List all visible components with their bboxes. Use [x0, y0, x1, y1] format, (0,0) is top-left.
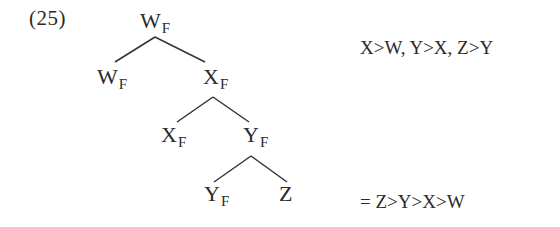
- edge-x-xleaf: [177, 97, 213, 122]
- edge-y-z: [251, 156, 287, 182]
- node-label: X: [161, 122, 177, 147]
- tree-node-y-leaf: YF: [204, 183, 229, 209]
- tree-node-w-leaf: WF: [97, 66, 127, 92]
- node-subscript: F: [162, 20, 170, 36]
- node-label: Y: [204, 181, 220, 206]
- node-subscript: F: [119, 76, 127, 92]
- tree-node-x: XF: [203, 66, 228, 92]
- tree-node-y: YF: [243, 124, 268, 150]
- node-subscript: F: [260, 134, 268, 150]
- node-subscript: F: [178, 134, 186, 150]
- edge-y-yleaf: [214, 156, 251, 182]
- tree-node-z-leaf: Z: [279, 183, 292, 205]
- node-label: W: [97, 64, 118, 89]
- node-label: Y: [243, 122, 259, 147]
- ordering-result: = Z>Y>X>W: [360, 191, 465, 213]
- node-label: Z: [279, 181, 292, 206]
- tree-node-x-leaf: XF: [161, 124, 186, 150]
- node-label: W: [140, 8, 161, 33]
- edge-root-w: [115, 37, 155, 62]
- node-subscript: F: [221, 193, 229, 209]
- edge-root-x: [155, 37, 205, 62]
- node-subscript: F: [220, 76, 228, 92]
- ordering-constraints: X>W, Y>X, Z>Y: [360, 37, 493, 59]
- edge-x-y: [213, 97, 249, 122]
- node-label: X: [203, 64, 219, 89]
- tree-node-root: WF: [140, 10, 170, 36]
